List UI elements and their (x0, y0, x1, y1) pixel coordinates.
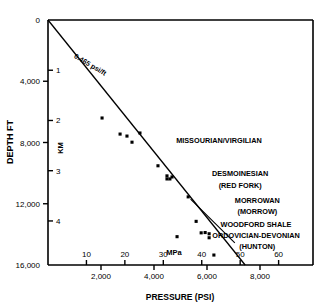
y-ticklabel-km: 1 (56, 66, 61, 75)
x-ticklabel-mpa: 10 (82, 250, 91, 259)
y-ticklabel-km: 2 (56, 116, 61, 125)
x-ticklabel-mpa: 20 (120, 250, 129, 259)
x-ticklabel-psi: 2,000 (91, 272, 112, 281)
y-ticklabel-ft: 16,000 (16, 261, 41, 270)
unit-missourian-virgilian: MISSOURIAN/VIRGILIAN (176, 136, 262, 145)
unit-woodford-shale: WOODFORD SHALE (221, 220, 292, 229)
data-point (138, 131, 141, 134)
data-point (130, 141, 133, 144)
y-ticklabel-ft: 4,000 (20, 77, 41, 86)
x-ticklabel-psi: 4,000 (144, 272, 165, 281)
x-ticklabel-psi: 8,000 (250, 272, 271, 281)
data-point (204, 231, 207, 234)
stratigraphic-unit-annotations: 0.465 psi/ftMISSOURIAN/VIRGILIANDESMOINE… (73, 52, 300, 251)
unit-morrowan: MORROWAN (235, 196, 280, 205)
data-point (101, 116, 104, 119)
y-axis-ticklabels-feet: 04,0008,00012,00016,000 (16, 16, 41, 270)
data-point (208, 236, 211, 239)
data-point (208, 232, 211, 235)
x-ticklabel-mpa: 40 (197, 250, 206, 259)
x-axis-title-mpa: MPa (166, 248, 182, 257)
x-axis-ticklabels-mpa: 102030405060 (82, 250, 284, 259)
y-ticklabel-km: 4 (56, 217, 61, 226)
unit-desmoinesian: DESMOINESIAN (212, 169, 268, 178)
y-axis-title-depth: DEPTH FT (5, 119, 15, 164)
data-point (170, 175, 173, 178)
data-point (165, 177, 168, 180)
unit-desmoinesian-sub: (RED FORK) (219, 181, 263, 190)
data-point (156, 164, 159, 167)
data-point (212, 253, 215, 256)
y-ticklabel-ft: 12,000 (16, 200, 41, 209)
data-point (125, 135, 128, 138)
unit-morrowan-sub: (MORROW) (237, 207, 277, 216)
y-ticklabel-ft: 0 (36, 16, 41, 25)
pressure-depth-scatter-plot: 04,0008,00012,00016,000 1234 2,0004,0006… (0, 0, 326, 306)
data-point (200, 231, 203, 234)
y-axis-title-km: KM (56, 142, 65, 154)
data-point (195, 220, 198, 223)
unit-ordovician-devonian: ORDOVICIAN-DEVONIAN (212, 231, 300, 240)
data-point (165, 174, 168, 177)
unit-hunton-sub: (HUNTON) (239, 242, 276, 251)
gradient-label: 0.465 psi/ft (73, 52, 109, 78)
y-ticklabel-km: 3 (56, 167, 61, 176)
y-ticklabel-ft: 8,000 (20, 139, 41, 148)
data-point (119, 133, 122, 136)
data-point (187, 195, 190, 198)
x-ticklabel-psi: 6,000 (197, 272, 218, 281)
pressure-depth-chart-figure: 04,0008,00012,00016,000 1234 2,0004,0006… (0, 0, 326, 306)
data-point (176, 235, 179, 238)
x-axis-title-pressure: PRESSURE (PSI) (146, 292, 215, 302)
x-ticklabel-mpa: 60 (274, 250, 283, 259)
x-axis-ticklabels-psi: 2,0004,0006,0008,000 (91, 272, 271, 281)
